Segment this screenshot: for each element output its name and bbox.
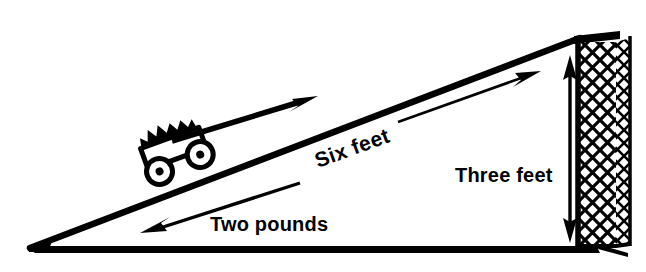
wall-group: [574, 31, 630, 248]
wall-side-hatch: [616, 38, 630, 245]
base-front-face: [29, 249, 600, 253]
cart-group: [132, 111, 217, 189]
inclined-plane-diagram: Six feet Three feet Two pounds: [0, 0, 646, 272]
height-arrow: [563, 55, 577, 243]
wall-face-hatch: [580, 42, 616, 245]
label-six-feet: Six feet: [312, 124, 393, 172]
wall-bottom-edge: [578, 244, 630, 246]
label-three-feet: Three feet: [455, 164, 553, 186]
force-arrow-thick: [172, 96, 318, 141]
diagram-canvas: Six feet Three feet Two pounds: [0, 0, 646, 272]
label-two-pounds: Two pounds: [210, 213, 328, 235]
